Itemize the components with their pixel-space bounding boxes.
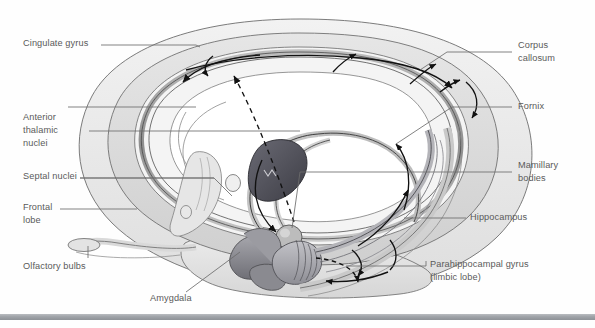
label-septal-nuclei: Septal nuclei xyxy=(23,171,77,182)
label-corpus-callosum-line2: callosum xyxy=(518,53,555,64)
limbic-system-illustration xyxy=(0,0,595,328)
label-mamillary-bodies-line1: Mamillary xyxy=(518,160,558,171)
page-edge-bar xyxy=(0,314,595,320)
label-frontal-lobe-line1: Frontal xyxy=(23,202,52,213)
label-cingulate-gyrus: Cingulate gyrus xyxy=(23,38,88,49)
label-olfactory-bulbs: Olfactory bulbs xyxy=(23,261,86,272)
label-parahippocampal-gyrus-line2: (limbic lobe) xyxy=(430,272,481,283)
limbic-system-figure: Cingulate gyrus Anterior thalamic nuclei… xyxy=(0,0,595,328)
label-mamillary-bodies-line2: bodies xyxy=(518,173,546,184)
label-anterior-thalamic-nuclei-line3: nuclei xyxy=(23,138,48,149)
label-frontal-lobe-line2: lobe xyxy=(23,215,41,226)
label-anterior-thalamic-nuclei-line2: thalamic xyxy=(23,125,58,136)
label-anterior-thalamic-nuclei-line1: Anterior xyxy=(23,112,56,123)
label-amygdala: Amygdala xyxy=(150,293,192,304)
label-fornix: Fornix xyxy=(518,101,544,112)
label-hippocampus: Hippocampus xyxy=(470,212,527,223)
label-corpus-callosum-line1: Corpus xyxy=(518,40,548,51)
label-parahippocampal-gyrus-line1: Parahippocampal gyrus xyxy=(430,259,529,270)
